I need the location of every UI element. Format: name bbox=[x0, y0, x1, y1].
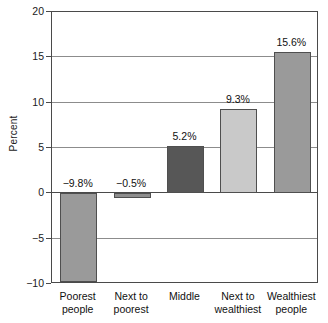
category-label-line: Middle bbox=[169, 290, 200, 303]
category-label-line: Wealthiest bbox=[267, 290, 316, 303]
bar-value-label: 9.3% bbox=[226, 93, 250, 105]
bar-chart: Percent 20151050−5−10 PoorestpeopleNext … bbox=[0, 0, 328, 323]
y-tick-label: 5 bbox=[10, 141, 44, 153]
y-tick-label: 20 bbox=[10, 5, 44, 17]
y-tick-label: 0 bbox=[10, 186, 44, 198]
y-tick-mark bbox=[46, 147, 51, 148]
y-tick-label: −5 bbox=[10, 232, 44, 244]
category-label: Next towealthiest bbox=[215, 290, 262, 315]
category-label-line: people bbox=[267, 303, 316, 316]
bar bbox=[220, 109, 257, 193]
bar bbox=[274, 52, 311, 193]
category-label: Wealthiestpeople bbox=[267, 290, 316, 315]
bar bbox=[114, 193, 151, 198]
bar bbox=[167, 146, 204, 193]
category-label-line: Poorest bbox=[60, 290, 96, 303]
y-tick-label: 10 bbox=[10, 96, 44, 108]
y-tick-label: 15 bbox=[10, 50, 44, 62]
y-tick-mark bbox=[46, 102, 51, 103]
category-label-line: people bbox=[60, 303, 96, 316]
bar-value-label: −0.5% bbox=[116, 177, 146, 189]
category-label: Middle bbox=[169, 290, 200, 303]
category-label-line: wealthiest bbox=[215, 303, 262, 316]
y-tick-mark bbox=[46, 192, 51, 193]
y-tick-mark bbox=[46, 56, 51, 57]
y-tick-mark bbox=[46, 283, 51, 284]
bar-value-label: −9.8% bbox=[63, 177, 93, 189]
category-label: Poorestpeople bbox=[60, 290, 96, 315]
category-label: Next topoorest bbox=[114, 290, 149, 315]
y-tick-label: −10 bbox=[10, 277, 44, 289]
y-axis-tick-labels: 20151050−5−10 bbox=[10, 0, 44, 323]
plot-area bbox=[51, 11, 318, 283]
category-label-line: Next to bbox=[114, 290, 149, 303]
y-tick-mark bbox=[46, 11, 51, 12]
category-label-line: poorest bbox=[114, 303, 149, 316]
bar-value-label: 15.6% bbox=[276, 36, 306, 48]
bar-value-label: 5.2% bbox=[173, 130, 197, 142]
bar bbox=[60, 193, 97, 282]
y-tick-mark bbox=[46, 238, 51, 239]
category-label-line: Next to bbox=[215, 290, 262, 303]
